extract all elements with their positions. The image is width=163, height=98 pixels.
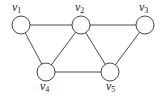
node-label-v1: v1 [12, 0, 21, 15]
node-label-v2: v2 [75, 0, 84, 15]
graph-diagram: v1v2v3v4v5 [0, 0, 163, 98]
node-label-v3: v3 [139, 0, 148, 15]
node-v1 [12, 16, 30, 34]
node-label-v5: v5 [106, 79, 115, 94]
nodes: v1v2v3v4v5 [12, 0, 154, 94]
node-v3 [136, 16, 154, 34]
node-v2 [72, 16, 90, 34]
